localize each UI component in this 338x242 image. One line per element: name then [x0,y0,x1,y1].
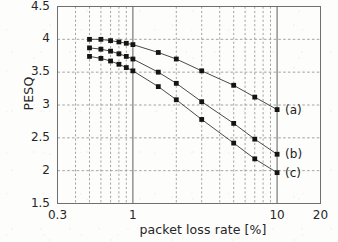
x-tick-label: 1 [113,208,153,222]
data-point-marker [131,57,136,62]
data-point-marker [174,57,179,62]
data-point-marker [174,97,179,102]
data-point-marker [99,56,104,61]
data-point-marker [87,54,92,59]
data-point-marker [124,54,129,59]
y-tick-label: 3.5 [0,64,50,78]
data-point-marker [199,99,204,104]
y-tick-label: 2 [0,163,50,177]
data-point-marker [131,42,136,47]
data-point-marker [275,107,280,112]
chart-figure: PESQ packet loss rate [%] 1.522.533.544.… [0,0,338,242]
data-point-marker [275,152,280,157]
data-point-marker [87,45,92,50]
x-tick-label: 10 [257,208,297,222]
data-point-marker [87,37,92,42]
series-label-c: (c) [285,166,301,180]
data-point-marker [124,65,129,70]
y-tick-label: 4 [0,31,50,45]
y-tick-label: 2.5 [0,130,50,144]
data-point-marker [117,40,122,45]
y-tick-label: 4.5 [0,0,50,13]
data-point-marker [199,68,204,73]
series-line-3 [89,56,277,172]
data-point-marker [99,47,104,52]
data-point-marker [156,84,161,89]
data-point-marker [252,137,257,142]
data-point-marker [231,83,236,88]
data-point-marker [156,50,161,55]
chart-canvas [0,0,338,242]
data-point-marker [117,62,122,67]
data-point-marker [252,156,257,161]
x-axis-label: packet loss rate [%] [118,222,288,237]
data-point-marker [156,70,161,75]
data-point-marker [117,51,122,56]
data-point-marker [108,49,113,54]
x-tick-label: 20 [301,208,338,222]
data-point-marker [252,95,257,100]
x-tick-label: 0.3 [38,208,78,222]
series-line-1 [89,39,277,109]
data-point-marker [199,117,204,122]
y-tick-label: 3 [0,97,50,111]
data-point-marker [131,68,136,73]
data-point-marker [275,170,280,175]
series-layer [87,37,279,175]
data-point-marker [231,141,236,146]
data-point-marker [231,121,236,126]
series-label-a: (a) [285,103,302,117]
data-point-marker [174,81,179,86]
grid-major-y-lines [58,39,321,170]
data-point-marker [108,38,113,43]
data-point-marker [108,59,113,64]
series-label-b: (b) [285,147,302,161]
data-point-marker [124,41,129,46]
data-point-marker [99,37,104,42]
